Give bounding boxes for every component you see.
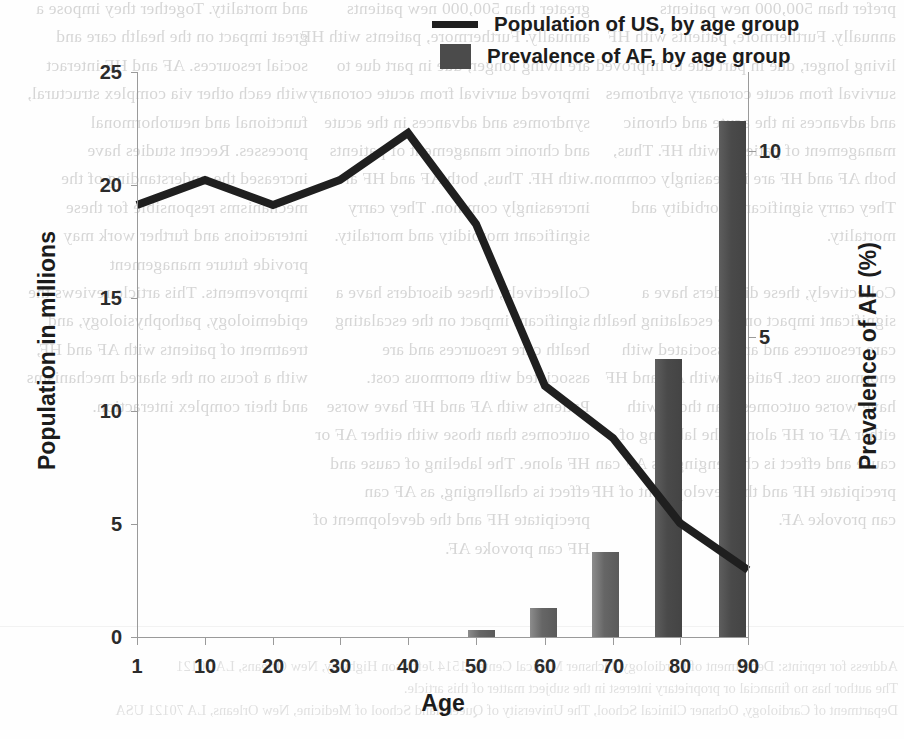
bar-age-45 <box>468 630 495 637</box>
y-right-tick-10 <box>749 151 756 152</box>
x-ticklabel-90: 90 <box>737 655 759 678</box>
y-left-ticklabel-25: 25 <box>60 61 122 84</box>
y-right-ticklabel-10: 10 <box>759 140 781 163</box>
legend-item-prevalence: Prevalence of AF, by age group <box>432 40 799 72</box>
x-tick-80 <box>680 638 681 645</box>
x-ticklabel-40: 40 <box>397 655 419 678</box>
y-left-tick-10 <box>131 411 138 412</box>
x-ticklabel-1: 1 <box>131 655 142 678</box>
x-tick-20 <box>273 638 274 645</box>
y-axis-left-title: Population in millions <box>34 231 61 470</box>
legend-line-swatch-icon <box>432 21 478 28</box>
y-left-ticklabel-15: 15 <box>60 287 122 310</box>
y-left-ticklabel-5: 5 <box>60 513 122 536</box>
y-right-tick-5 <box>749 337 756 338</box>
y-left-tick-20 <box>131 185 138 186</box>
x-axis-line <box>137 637 749 638</box>
legend-item-population: Population of US, by age group <box>432 8 799 40</box>
x-tick-50 <box>476 638 477 645</box>
x-ticklabel-70: 70 <box>602 655 624 678</box>
af-prevalence-population-chart: Population of US, by age group Prevalenc… <box>0 0 904 739</box>
bar-age-65 <box>592 552 619 637</box>
x-tick-30 <box>340 638 341 645</box>
x-ticklabel-60: 60 <box>534 655 556 678</box>
y-left-ticklabel-0: 0 <box>60 626 122 649</box>
x-axis-title: Age <box>421 690 464 717</box>
x-ticklabel-50: 50 <box>465 655 487 678</box>
x-tick-1 <box>137 638 138 645</box>
y-axis-right-line <box>748 72 749 638</box>
x-ticklabel-10: 10 <box>194 655 216 678</box>
bar-age-85 <box>719 121 746 637</box>
y-left-tick-25 <box>131 72 138 73</box>
y-left-tick-15 <box>131 298 138 299</box>
y-left-ticklabel-20: 20 <box>60 174 122 197</box>
x-ticklabel-80: 80 <box>669 655 691 678</box>
legend-label-population: Population of US, by age group <box>494 12 799 36</box>
population-line-series <box>0 0 904 739</box>
chart-legend: Population of US, by age group Prevalenc… <box>432 8 799 72</box>
y-left-tick-5 <box>131 524 138 525</box>
bar-age-75 <box>655 359 682 637</box>
x-tick-10 <box>205 638 206 645</box>
chart-page: and mortality. Together they impose a gr… <box>0 0 904 739</box>
y-left-ticklabel-10: 10 <box>60 400 122 423</box>
y-axis-left-line <box>137 72 138 638</box>
x-ticklabel-20: 20 <box>262 655 284 678</box>
bar-age-55 <box>530 608 557 637</box>
x-tick-60 <box>545 638 546 645</box>
y-axis-right-title: Prevalence of AF (%) <box>855 242 882 470</box>
x-tick-40 <box>408 638 409 645</box>
x-ticklabel-30: 30 <box>329 655 351 678</box>
legend-label-prevalence: Prevalence of AF, by age group <box>487 44 790 68</box>
x-tick-70 <box>613 638 614 645</box>
y-right-ticklabel-5: 5 <box>759 326 770 349</box>
x-tick-90 <box>748 638 749 645</box>
legend-bar-swatch-icon <box>440 44 471 69</box>
